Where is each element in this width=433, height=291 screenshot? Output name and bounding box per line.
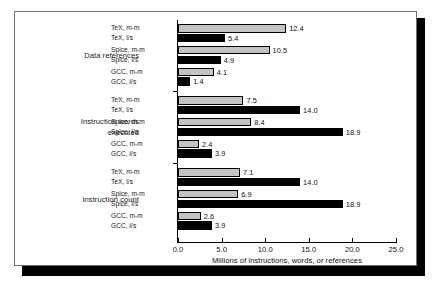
- bar-value-label: 14.0: [303, 178, 318, 187]
- bar-value-label: 8.4: [254, 118, 264, 127]
- plot-area: TeX, m-m12.4TeX, l/s5.4Spice, m-m10.5Spi…: [15, 12, 418, 267]
- bar-value-label: 1.4: [193, 77, 203, 86]
- bar-series-label: TeX, m-m: [111, 168, 173, 175]
- bar-series-label: GCC, l/s: [111, 222, 173, 229]
- bar-value-label: 18.9: [346, 200, 361, 209]
- bar-series-label: GCC, m-m: [111, 140, 173, 147]
- group-separator-tick: [173, 163, 178, 164]
- bar[interactable]: [178, 168, 240, 177]
- bar-value-label: 7.1: [243, 168, 253, 177]
- x-axis-tick: [222, 238, 223, 243]
- figure-frame: TeX, m-m12.4TeX, l/s5.4Spice, m-m10.5Spi…: [14, 11, 417, 266]
- bar[interactable]: [178, 106, 300, 115]
- x-axis-tick: [396, 238, 397, 243]
- bar-series-label: GCC, l/s: [111, 150, 173, 157]
- x-axis-tick: [309, 238, 310, 243]
- bar[interactable]: [178, 140, 199, 149]
- group-label-line-1: Instruction words: [81, 117, 139, 126]
- x-axis-tick-label: 25.0: [376, 245, 416, 254]
- group-category-label: Instruction wordsexecuted: [31, 116, 139, 138]
- bar[interactable]: [178, 149, 212, 158]
- bar-series-label: TeX, m-m: [111, 24, 173, 31]
- bar-value-label: 14.0: [303, 106, 318, 115]
- bar[interactable]: [178, 221, 212, 230]
- bar-series-label: TeX, m-m: [111, 96, 173, 103]
- group-label-line-2: executed: [31, 127, 139, 138]
- bar-value-label: 18.9: [346, 128, 361, 137]
- bar[interactable]: [178, 128, 343, 137]
- bar-series-label: TeX, l/s: [111, 178, 173, 185]
- bar[interactable]: [178, 178, 300, 187]
- bar[interactable]: [178, 24, 286, 33]
- bar-value-label: 10.5: [273, 46, 288, 55]
- bar-value-label: 3.9: [215, 149, 225, 158]
- x-axis-title: Millions of instructions, words, or refe…: [177, 256, 397, 265]
- bar[interactable]: [178, 34, 225, 43]
- x-axis-tick-label: 10.0: [245, 245, 285, 254]
- bar[interactable]: [178, 190, 238, 199]
- x-axis-tick: [352, 238, 353, 243]
- bar-value-label: 2.6: [204, 212, 214, 221]
- bar-value-label: 5.4: [228, 34, 238, 43]
- group-category-label: Instruction count: [31, 194, 139, 205]
- bar-value-label: 4.1: [217, 68, 227, 77]
- x-axis-tick-label: 15.0: [289, 245, 329, 254]
- group-category-label: Data references: [31, 50, 139, 61]
- bar[interactable]: [178, 68, 214, 77]
- figure-root: TeX, m-m12.4TeX, l/s5.4Spice, m-m10.5Spi…: [0, 0, 433, 291]
- bar[interactable]: [178, 56, 221, 65]
- bar-value-label: 2.4: [202, 140, 212, 149]
- bar[interactable]: [178, 212, 201, 221]
- bar-value-label: 4.9: [224, 56, 234, 65]
- bar[interactable]: [178, 77, 190, 86]
- bar-value-label: 6.9: [241, 190, 251, 199]
- bar[interactable]: [178, 118, 251, 127]
- bar[interactable]: [178, 96, 243, 105]
- x-axis-tick-label: 5.0: [202, 245, 242, 254]
- x-axis-tick: [178, 238, 179, 243]
- bar-value-label: 7.5: [246, 96, 256, 105]
- bar-series-label: GCC, l/s: [111, 78, 173, 85]
- group-separator-tick: [173, 91, 178, 92]
- bar[interactable]: [178, 46, 270, 55]
- bar-series-label: TeX, l/s: [111, 106, 173, 113]
- bar-value-label: 3.9: [215, 221, 225, 230]
- value-axis-line: [177, 242, 396, 243]
- bar-series-label: TeX, l/s: [111, 34, 173, 41]
- bar[interactable]: [178, 200, 343, 209]
- x-axis-tick-label: 0.0: [158, 245, 198, 254]
- bar-series-label: GCC, m-m: [111, 212, 173, 219]
- bar-series-label: GCC, m-m: [111, 68, 173, 75]
- x-axis-tick-label: 20.0: [332, 245, 372, 254]
- x-axis-tick: [265, 238, 266, 243]
- bar-value-label: 12.4: [289, 24, 304, 33]
